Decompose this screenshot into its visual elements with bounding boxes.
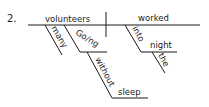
into-word: into [130,24,146,43]
the-word: the [156,51,171,68]
going-word: Go/ng [74,27,101,49]
subject-word: volunteers [45,14,91,24]
sentence-diagram: 2. volunteers worked many Go/ng without … [0,0,209,107]
night-word: night [150,40,173,50]
without-word: without [93,55,117,88]
sleep-word: sleep [118,87,141,97]
many-word: many [49,24,70,50]
exercise-number: 2. [7,13,17,24]
verb-word: worked [138,13,169,23]
